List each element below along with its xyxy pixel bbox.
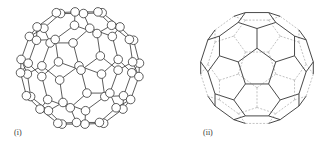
carbon-atom [44, 106, 53, 115]
carbon-atom [108, 32, 117, 41]
carbon-atom [55, 76, 64, 85]
hidden-edge [276, 74, 295, 80]
visible-edge [219, 22, 238, 36]
visible-edge [208, 56, 220, 72]
hidden-edge [208, 42, 215, 64]
carbon-atom [116, 23, 125, 32]
visible-edge [269, 120, 281, 124]
panel-label-ii: (ii) [203, 128, 213, 137]
hidden-edge [238, 74, 257, 88]
hidden-edge [201, 64, 208, 74]
carbon-atom [77, 66, 86, 75]
carbon-atom [97, 70, 106, 79]
visible-edge [269, 84, 281, 100]
carbon-atom [126, 95, 135, 104]
visible-edge [238, 22, 257, 28]
carbon-atom [94, 8, 103, 17]
hidden-edge [234, 36, 246, 52]
visible-edge [269, 100, 281, 116]
carbon-atom [54, 119, 63, 128]
ball-and-stick-model [16, 8, 144, 129]
carbon-atom [16, 68, 25, 77]
carbon-atom [95, 118, 104, 127]
carbon-atom [24, 59, 33, 68]
visible-edge [201, 40, 208, 62]
visible-edge [269, 116, 281, 120]
visible-edge [215, 94, 234, 100]
carbon-atom [96, 52, 105, 61]
visible-edge [238, 62, 245, 84]
polyhedron-model [201, 13, 314, 124]
visible-edge [238, 48, 257, 62]
visible-edge [295, 56, 307, 72]
carbon-atom [43, 95, 52, 104]
carbon-atom [81, 120, 90, 129]
panel-label-i: (i) [14, 128, 22, 137]
visible-edge [257, 48, 276, 62]
carbon-atom [81, 106, 90, 115]
carbon-atom [79, 9, 88, 18]
visible-edge [276, 56, 295, 62]
carbon-atom [51, 35, 60, 44]
carbon-atom [32, 36, 41, 45]
carbon-atom [69, 39, 78, 48]
carbon-atom [33, 23, 42, 32]
carbon-atom [135, 72, 144, 81]
visible-edge [269, 62, 276, 84]
carbon-atom [128, 58, 137, 67]
carbon-atom [38, 62, 47, 71]
carbon-atom [112, 103, 121, 112]
carbon-atom [106, 89, 115, 98]
visible-edge [306, 62, 313, 72]
carbon-atom [72, 118, 81, 127]
visible-edge [299, 72, 306, 94]
carbon-atom [107, 21, 116, 30]
visible-edge [234, 116, 246, 120]
visible-edge [201, 62, 208, 72]
carbon-atom [114, 55, 123, 64]
carbon-atom [114, 66, 123, 75]
hidden-edge [257, 74, 276, 88]
visible-edge [280, 94, 299, 100]
hidden-edge [269, 16, 281, 20]
carbon-atom [38, 72, 47, 81]
hidden-edge [269, 52, 276, 74]
carbon-atom [71, 8, 80, 17]
carbon-atom [93, 29, 102, 38]
hidden-edge [219, 74, 238, 80]
carbon-atom [83, 89, 92, 98]
carbon-atom [52, 8, 61, 17]
visible-edge [257, 22, 276, 28]
visible-edge [234, 100, 246, 116]
hidden-edge [299, 42, 306, 64]
fullerene-figure [0, 0, 324, 148]
visible-edge [234, 120, 246, 124]
hidden-edge [306, 64, 313, 74]
carbon-atom [70, 21, 79, 30]
hidden-edge [201, 74, 208, 96]
carbon-atom [85, 24, 94, 33]
carbon-atom [36, 105, 45, 114]
carbon-atom [66, 103, 75, 112]
carbon-atom [59, 98, 68, 107]
visible-edge [306, 40, 313, 62]
hidden-edge [269, 36, 281, 52]
hidden-edge [238, 52, 245, 74]
visible-edge [276, 22, 295, 36]
hidden-edge [234, 16, 246, 20]
visible-edge [219, 56, 238, 62]
carbon-atom [22, 91, 31, 100]
carbon-atom [125, 35, 134, 44]
carbon-atom [54, 58, 63, 67]
visible-edge [208, 72, 215, 94]
visible-edge [234, 84, 246, 100]
hidden-edge [306, 74, 313, 96]
